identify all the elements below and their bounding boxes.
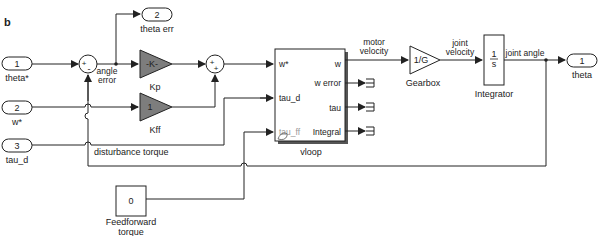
signal-label-velocity: velocity (360, 46, 389, 56)
svg-text:2: 2 (154, 10, 159, 20)
svg-text:0: 0 (128, 196, 133, 206)
subsystem-label-vloop: vloop (300, 147, 322, 157)
wire-theta-err (116, 14, 140, 64)
svg-text:2: 2 (14, 103, 19, 113)
outport-label-theta-err: theta err (140, 24, 174, 34)
terminator-w-error (345, 79, 374, 87)
svg-text:1: 1 (579, 56, 584, 66)
svg-text:-: - (88, 64, 91, 74)
vloop-output-integral: Integral (313, 127, 341, 137)
terminator-tau (345, 103, 374, 111)
signal-label-joint-angle: joint angle (505, 48, 545, 58)
inport-tau-d[interactable]: 3 (2, 139, 32, 152)
gain-gearbox[interactable]: 1/G (410, 46, 440, 74)
figure-label: b (4, 16, 11, 28)
integrator-block[interactable]: 1 s (484, 35, 504, 85)
inport-label-theta-star: theta* (5, 73, 29, 83)
svg-text:1/G: 1/G (414, 55, 429, 65)
svg-text:+: + (82, 59, 87, 68)
subsystem-vloop[interactable]: w* tau_d tau_ff w w error tau Integral (275, 49, 348, 144)
signal-label-joint-velocity: velocity (446, 47, 475, 57)
svg-text:-K-: -K- (146, 59, 158, 69)
vloop-output-w: w (334, 59, 342, 69)
vloop-input-w-star: w* (278, 59, 289, 69)
inport-w-star[interactable]: 2 (2, 101, 32, 114)
outport-theta-err[interactable]: 2 (142, 8, 172, 21)
outport-label-theta: theta (572, 70, 592, 80)
integrator-label: Integrator (475, 89, 514, 99)
simulink-diagram: b 1 theta* 2 w* 3 tau_d + - angle error … (0, 0, 602, 236)
signal-label-error: error (98, 75, 116, 85)
signal-label-disturbance-torque: disturbance torque (94, 147, 169, 157)
gain-label-kff: Kff (150, 125, 161, 135)
constant-label-2: torque (118, 227, 144, 236)
vloop-output-w-error: w error (314, 78, 342, 88)
inport-theta-star[interactable]: 1 (2, 57, 32, 70)
sum-block-velocity[interactable]: + + (206, 55, 224, 73)
inport-label-tau-d: tau_d (6, 155, 29, 165)
svg-text:1: 1 (491, 49, 496, 59)
svg-text:s: s (492, 59, 497, 69)
sum-block-angle-error[interactable]: + - (79, 55, 97, 74)
gain-label-kp: Kp (149, 82, 160, 92)
gain-kp[interactable]: -K- (140, 50, 172, 78)
inport-label-w-star: w* (11, 117, 22, 127)
svg-text:1: 1 (14, 59, 19, 69)
vloop-input-tau-d: tau_d (279, 93, 301, 103)
gain-kff[interactable]: 1 (140, 93, 172, 121)
svg-text:1: 1 (147, 102, 152, 112)
svg-text:+: + (214, 64, 219, 73)
terminator-integral (345, 127, 374, 135)
vloop-input-tau-ff: tau_ff (279, 127, 301, 137)
outport-theta[interactable]: 1 (567, 54, 597, 67)
constant-feedforward-torque[interactable]: 0 (116, 186, 146, 216)
gain-label-gearbox: Gearbox (406, 78, 441, 88)
svg-text:3: 3 (14, 141, 19, 151)
wire-kff-out (172, 75, 215, 107)
constant-label-1: Feedforward (106, 217, 157, 227)
vloop-output-tau: tau (329, 103, 341, 113)
